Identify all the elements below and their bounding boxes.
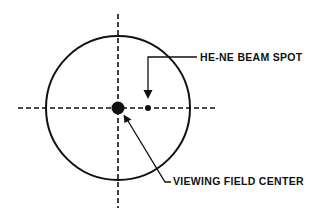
field-center-label: VIEWING FIELD CENTER [173,175,304,187]
beam-spot-arrowhead-icon [144,90,153,99]
beam-spot-label: HE-NE BEAM SPOT [200,51,303,63]
beam-spot-dot [145,105,151,111]
field-center-dot [112,102,125,115]
field-center-arrowhead-icon [124,115,132,124]
diagram-canvas: HE-NE BEAM SPOT VIEWING FIELD CENTER [0,0,336,219]
